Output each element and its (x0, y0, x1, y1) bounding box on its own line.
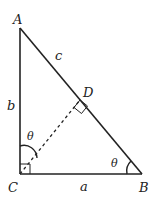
triangle-diagram: A B C D a b c θ θ (0, 0, 159, 201)
angle-label-C: θ (27, 130, 34, 143)
side-label-a: a (80, 179, 88, 194)
side-label-c: c (55, 48, 63, 63)
vertex-label-B: B (138, 180, 149, 195)
angle-arc-B (127, 161, 131, 174)
angle-label-B: θ (111, 157, 118, 170)
side-label-b: b (7, 98, 15, 113)
vertex-label-A: A (12, 12, 22, 27)
vertex-label-D: D (82, 85, 94, 100)
vertex-label-C: C (8, 180, 18, 195)
angle-arc-C (20, 145, 37, 158)
